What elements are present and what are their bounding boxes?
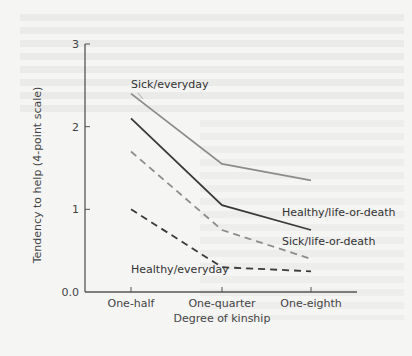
series-label-sick-life-or-death: Sick/life-or-death	[282, 235, 375, 248]
x-axis-title: Degree of kinship	[174, 312, 271, 325]
x-tick-label: One-quarter	[188, 297, 256, 310]
y-tick-label: 1	[72, 203, 79, 216]
series-line-sick-everyday	[131, 94, 311, 181]
y-tick-label: 0.0	[62, 286, 80, 299]
y-axis-title: Tendency to help (4-point scale)	[31, 87, 44, 265]
series-label-healthy-everyday: Healthy/everyday	[131, 263, 229, 276]
x-tick-label: One-eighth	[280, 297, 341, 310]
y-tick-label: 3	[72, 38, 79, 51]
x-ticks: One-halfOne-quarterOne-eighth	[107, 287, 341, 310]
line-chart: 0.0123 One-halfOne-quarterOne-eighth Deg…	[0, 0, 412, 356]
x-tick-label: One-half	[107, 297, 155, 310]
label-leader-line	[138, 93, 143, 99]
series-label-sick-everyday: Sick/everyday	[131, 78, 209, 91]
series-label-healthy-life-or-death: Healthy/life-or-death	[282, 206, 396, 219]
y-ticks: 0.0123	[62, 38, 91, 299]
y-tick-label: 2	[72, 121, 79, 134]
